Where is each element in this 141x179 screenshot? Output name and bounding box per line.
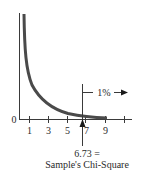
chi-square-curve [24, 14, 107, 118]
tick-label-3: 3 [46, 125, 51, 136]
tail-percent-label: 1% [97, 87, 110, 98]
origin-label: 0 [12, 114, 17, 125]
sample-value-arrow-icon [80, 119, 86, 127]
sample-chi-square-label: Sample's Chi-Square [45, 159, 129, 170]
sample-value-label: 6.73 = [74, 148, 100, 159]
chi-square-chart: 0 1 3 5 7 9 1% 6.73 = Sample's Chi-Squar… [0, 0, 141, 179]
tick-label-1: 1 [27, 125, 32, 136]
tick-label-9: 9 [103, 125, 108, 136]
tick-label-5: 5 [65, 125, 70, 136]
right-arrow-icon [121, 90, 128, 96]
